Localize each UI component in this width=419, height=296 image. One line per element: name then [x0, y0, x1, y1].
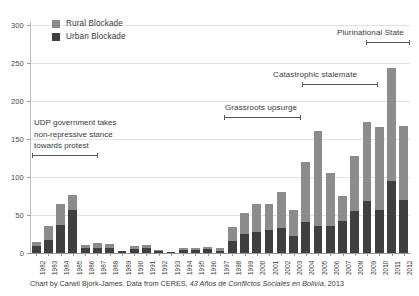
- x-axis-label-2012: 2012: [406, 261, 413, 275]
- x-tick-1996: [208, 253, 209, 256]
- bar-segment-rural-2008: [350, 156, 359, 211]
- x-tick-1982: [36, 253, 37, 256]
- annotation-udp-text: UDP government takes non-repressive stan…: [34, 117, 117, 152]
- bar-segment-rural-2007: [338, 196, 347, 221]
- x-tick-1988: [110, 253, 111, 256]
- bar-segment-urban-2005: [314, 226, 323, 253]
- legend-swatch-rural: [52, 20, 60, 28]
- x-axis-label-1991: 1991: [149, 261, 156, 275]
- blockades-bar-chart: 050100150200250300 198219831984198519861…: [0, 0, 419, 296]
- annotation-udp-span-start-cap: [32, 153, 33, 158]
- bar-segment-rural-2009: [363, 122, 372, 201]
- bar-1985: [68, 194, 77, 253]
- x-axis-label-1989: 1989: [125, 261, 132, 275]
- y-axis-label-200: 200: [0, 97, 24, 106]
- bar-2002: [277, 192, 286, 253]
- x-axis-label-1998: 1998: [235, 261, 242, 275]
- bar-2010: [375, 127, 384, 253]
- bar-segment-urban-2012: [399, 200, 408, 253]
- x-tick-2000: [257, 253, 258, 256]
- bar-segment-urban-2011: [387, 181, 396, 253]
- bar-2011: [387, 68, 396, 253]
- legend-item-rural: Rural Blockade: [52, 18, 126, 29]
- bar-1984: [56, 204, 65, 253]
- x-axis-label-2010: 2010: [382, 261, 389, 275]
- x-axis-label-2006: 2006: [333, 261, 340, 275]
- legend-label-urban: Urban Blockade: [66, 32, 126, 41]
- x-axis-label-2000: 2000: [259, 261, 266, 275]
- x-axis-label-1992: 1992: [161, 261, 168, 275]
- caption-prefix: Chart by Carwil Bjork-James. Data from C…: [30, 279, 190, 288]
- x-tick-2003: [294, 253, 295, 256]
- x-axis-label-1995: 1995: [198, 261, 205, 275]
- bar-2007: [338, 196, 347, 253]
- annotation-plurinational-text: Plurinational State: [337, 28, 404, 37]
- bar-1988: [105, 244, 114, 253]
- x-axis-label-2011: 2011: [394, 261, 401, 275]
- bar-1987: [93, 243, 102, 253]
- x-tick-2006: [330, 253, 331, 256]
- bar-segment-rural-1984: [56, 204, 65, 225]
- bar-segment-rural-1999: [240, 213, 249, 234]
- annotation-stalemate-text: Catastrophic stalemate: [273, 70, 357, 79]
- bar-segment-rural-1998: [228, 227, 237, 241]
- annotation-stalemate-span: [302, 84, 378, 85]
- x-tick-1997: [220, 253, 221, 256]
- legend: Rural Blockade Urban Blockade: [52, 18, 126, 44]
- bar-segment-urban-1999: [240, 234, 249, 253]
- bar-2012: [399, 126, 408, 253]
- x-tick-1984: [61, 253, 62, 256]
- bar-1986: [81, 245, 90, 253]
- x-axis-label-1997: 1997: [223, 261, 230, 275]
- bar-segment-rural-2000: [252, 204, 261, 232]
- x-axis-label-2009: 2009: [370, 261, 377, 275]
- x-axis-label-1982: 1982: [39, 261, 46, 275]
- annotation-udp-span: [32, 155, 98, 156]
- x-tick-1989: [122, 253, 123, 256]
- bar-segment-rural-2011: [387, 68, 396, 180]
- annotation-udp-span-end-cap: [97, 153, 98, 158]
- bar-segment-rural-2005: [314, 131, 323, 226]
- bar-segment-urban-2000: [252, 232, 261, 253]
- bar-segment-urban-2004: [301, 222, 310, 253]
- x-tick-2008: [355, 253, 356, 256]
- bar-segment-urban-2008: [350, 211, 359, 253]
- bar-1983: [44, 226, 53, 253]
- x-tick-2004: [306, 253, 307, 256]
- x-tick-1994: [183, 253, 184, 256]
- annotation-grassroots-span-end-cap: [300, 115, 301, 120]
- x-tick-1995: [195, 253, 196, 256]
- bar-1990: [130, 246, 139, 253]
- x-tick-2010: [379, 253, 380, 256]
- bar-segment-urban-1985: [68, 210, 77, 253]
- bar-segment-rural-2002: [277, 192, 286, 228]
- caption-source-title: 43 Años de Conflictos Sociales en Bolivi…: [190, 279, 324, 288]
- bar-1999: [240, 213, 249, 253]
- x-axis-label-2007: 2007: [345, 261, 352, 275]
- x-axis-label-1993: 1993: [174, 261, 181, 275]
- x-axis-label-1984: 1984: [63, 261, 70, 275]
- bar-segment-urban-1982: [32, 246, 41, 253]
- bar-1998: [228, 227, 237, 253]
- annotation-grassroots-span-start-cap: [224, 115, 225, 120]
- bar-segment-urban-2010: [375, 210, 384, 253]
- annotation-plurinational-span-end-cap: [409, 40, 410, 45]
- x-axis-label-1988: 1988: [112, 261, 119, 275]
- bar-2005: [314, 131, 323, 253]
- chart-caption: Chart by Carwil Bjork-James. Data from C…: [30, 279, 344, 288]
- annotation-udp-line1: UDP government takes: [34, 117, 117, 129]
- x-axis-label-2008: 2008: [357, 261, 364, 275]
- x-tick-2005: [318, 253, 319, 256]
- x-tick-2012: [404, 253, 405, 256]
- bar-segment-urban-2002: [277, 228, 286, 253]
- x-axis-label-1994: 1994: [186, 261, 193, 275]
- x-axis-label-2005: 2005: [321, 261, 328, 275]
- x-axis-label-1987: 1987: [100, 261, 107, 275]
- x-tick-2009: [367, 253, 368, 256]
- bar-segment-urban-2001: [265, 230, 274, 253]
- bar-segment-rural-2001: [265, 204, 274, 230]
- bar-segment-rural-2004: [301, 162, 310, 222]
- bar-segment-rural-2003: [289, 210, 298, 236]
- bar-2000: [252, 204, 261, 253]
- annotation-grassroots-text: Grassroots upsurge: [225, 103, 297, 112]
